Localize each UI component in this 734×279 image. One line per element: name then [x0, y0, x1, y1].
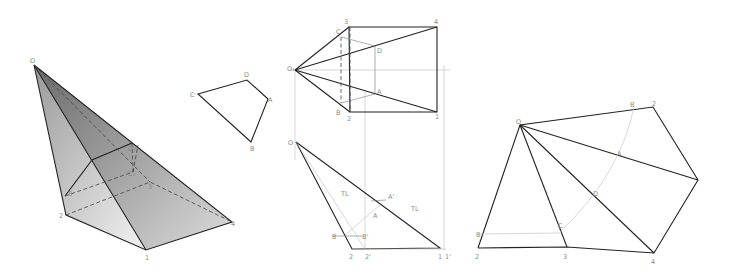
label-1: 1	[435, 113, 439, 121]
development-outline	[478, 107, 698, 253]
label-TL-1: TL	[340, 190, 349, 198]
label-B-left: B	[476, 231, 480, 239]
drawing-canvas: O D₁ C₁ B 3 2 4 1 C D A B 3 4 C D O₁ A B…	[0, 0, 734, 279]
label-3: 3	[148, 183, 152, 191]
section-curve	[560, 107, 634, 232]
label-4: 4	[231, 220, 235, 228]
label-B: B	[68, 190, 72, 198]
label-O: O	[288, 139, 293, 147]
label-A: A	[373, 212, 378, 220]
label-3: 3	[344, 18, 348, 26]
label-D: D	[244, 71, 249, 79]
label-D: D	[593, 190, 598, 198]
front-view	[296, 142, 446, 249]
label-B: B	[332, 233, 336, 241]
top-view	[290, 27, 450, 250]
label-C: C	[336, 28, 341, 36]
label-A-prime: A'	[388, 193, 394, 201]
label-C: C	[558, 222, 563, 230]
label-O: O	[30, 57, 35, 65]
label-1-prime: 1'	[445, 253, 451, 261]
label-2: 2	[347, 115, 351, 123]
label-D1: D₁	[128, 145, 136, 153]
label-1: 1	[438, 253, 442, 261]
label-3: 3	[563, 253, 567, 261]
label-2-top: 2	[652, 100, 656, 108]
label-TL-2: TL	[410, 205, 419, 213]
label-A: A	[617, 150, 622, 158]
label-1: 1	[145, 254, 149, 262]
label-D: D	[377, 47, 382, 55]
label-2: 2	[475, 253, 479, 261]
label-A: A	[268, 96, 273, 104]
label-B: B	[250, 145, 254, 153]
label-2-prime: 2'	[365, 253, 371, 261]
label-2: 2	[349, 253, 353, 261]
label-C: C	[190, 91, 195, 99]
label-2: 2	[59, 212, 63, 220]
label-B: B	[336, 109, 340, 117]
section-true-shape	[198, 80, 268, 142]
label-O: O	[516, 118, 521, 126]
label-4: 4	[434, 18, 438, 26]
label-A: A	[377, 88, 382, 96]
label-B-prime: B'	[362, 233, 368, 241]
label-B-top: B	[630, 101, 634, 109]
label-C1: C₁	[128, 170, 136, 178]
label-O1: O₁	[287, 65, 295, 73]
development	[478, 107, 698, 253]
label-4: 4	[651, 258, 655, 266]
